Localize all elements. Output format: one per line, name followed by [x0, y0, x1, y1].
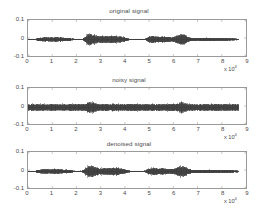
- xtick-label: 3: [95, 190, 105, 196]
- ytick-original-top: 0.1: [2, 16, 24, 22]
- ytick-denoised-mid: 0: [2, 167, 24, 173]
- xtick-label: 2: [71, 58, 81, 64]
- exponent-power-original: 4: [235, 64, 237, 69]
- xtick-label: 9: [242, 58, 252, 64]
- ytick-noisy-top: 0.1: [2, 84, 24, 90]
- subplot-title-original: original signal: [0, 7, 258, 14]
- xtick-label: 1: [46, 58, 56, 64]
- xaxis-exponent-original: x 104: [224, 64, 237, 72]
- xtick-label: 4: [120, 58, 130, 64]
- ytick-original-bot: -0.1: [2, 53, 24, 59]
- xtick-label: 5: [144, 58, 154, 64]
- xaxis-exponent-noisy: x 104: [224, 132, 237, 140]
- ytick-denoised-bot: -0.1: [2, 185, 24, 191]
- xaxis-exponent-denoised: x 104: [224, 196, 237, 204]
- xtick-label: 9: [242, 190, 252, 196]
- exponent-text-noisy: x 10: [224, 134, 235, 140]
- xtick-label: 7: [193, 58, 203, 64]
- xtick-label: 5: [144, 190, 154, 196]
- subplot-title-denoised: denoised signal: [0, 140, 258, 147]
- xtick-label: 6: [169, 190, 179, 196]
- ytick-original-mid: 0: [2, 35, 24, 41]
- xtick-label: 0: [22, 190, 32, 196]
- plot-area-noisy: [27, 87, 247, 125]
- xtick-label: 5: [144, 126, 154, 132]
- ytick-noisy-bot: -0.1: [2, 121, 24, 127]
- exponent-power-noisy: 4: [235, 132, 237, 137]
- plot-area-original: [27, 19, 247, 57]
- subplot-title-noisy: noisy signal: [0, 76, 258, 83]
- exponent-text-denoised: x 10: [224, 198, 235, 204]
- xtick-label: 9: [242, 126, 252, 132]
- xtick-label: 4: [120, 126, 130, 132]
- xtick-label: 3: [95, 58, 105, 64]
- xtick-label: 6: [169, 126, 179, 132]
- xtick-label: 1: [46, 126, 56, 132]
- xtick-label: 3: [95, 126, 105, 132]
- xtick-label: 2: [71, 190, 81, 196]
- xtick-label: 0: [22, 58, 32, 64]
- ytick-denoised-top: 0.1: [2, 148, 24, 154]
- xtick-label: 1: [46, 190, 56, 196]
- exponent-power-denoised: 4: [235, 196, 237, 201]
- xtick-label: 7: [193, 190, 203, 196]
- xtick-label: 7: [193, 126, 203, 132]
- ytick-noisy-mid: 0: [2, 103, 24, 109]
- xtick-label: 0: [22, 126, 32, 132]
- figure-canvas: original signal 0.1 0 -0.1 0123456789 x …: [0, 0, 258, 215]
- plot-area-denoised: [27, 151, 247, 189]
- exponent-text-original: x 10: [224, 66, 235, 72]
- xtick-label: 6: [169, 58, 179, 64]
- xtick-label: 2: [71, 126, 81, 132]
- xtick-label: 4: [120, 190, 130, 196]
